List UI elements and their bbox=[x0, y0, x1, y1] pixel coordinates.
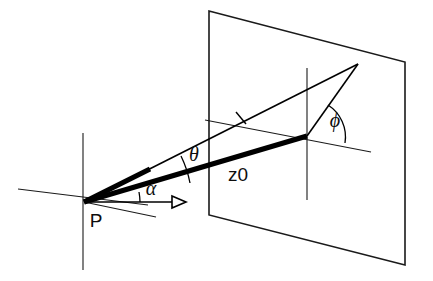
label-distance: z0 bbox=[228, 164, 248, 185]
diagram-labels: P α θ ϕ z0 bbox=[90, 109, 341, 231]
geometry-diagram: P α θ ϕ z0 bbox=[0, 0, 433, 281]
alpha-arc bbox=[139, 192, 140, 202]
label-origin-point: P bbox=[90, 210, 103, 231]
diagram-canvas: P α θ ϕ z0 bbox=[0, 0, 433, 281]
alpha-arrow-head bbox=[172, 196, 186, 208]
label-elevation-angle: θ bbox=[189, 143, 199, 165]
label-azimuth-angle: α bbox=[146, 177, 157, 199]
label-plane-angle: ϕ bbox=[330, 109, 340, 132]
